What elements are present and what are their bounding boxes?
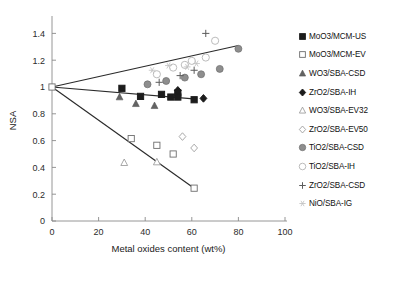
data-point-filled-diamond — [200, 95, 207, 103]
data-point-filled-circle — [198, 71, 205, 78]
data-point-filled-circle — [144, 81, 151, 88]
legend-marker-filled-square-icon — [296, 30, 309, 43]
legend-item[interactable]: ZrO2/SBA-EV50 — [296, 120, 420, 139]
legend-item-label: WO3/SBA-EV32 — [309, 106, 368, 115]
data-point-filled-circle — [235, 45, 242, 52]
legend-item[interactable]: WO3/SBA-CSD — [296, 64, 420, 83]
data-point-open-square — [300, 52, 306, 58]
chart-legend: MoO3/MCM-USMoO3/MCM-EVWO3/SBA-CSDZrO2/SB… — [296, 27, 420, 213]
data-point-filled-diamond — [299, 89, 305, 96]
legend-item[interactable]: WO3/SBA-EV32 — [296, 101, 420, 120]
data-point-filled-square — [168, 94, 174, 100]
data-point-filled-square — [191, 97, 197, 103]
data-point-filled-square — [119, 85, 125, 91]
legend-item-label: ZrO2/SBA-EV50 — [309, 125, 368, 134]
legend-item[interactable]: NiO/SBA-IG — [296, 194, 420, 213]
data-point-open-square — [191, 185, 197, 191]
x-axis-title: Metal oxides content (wt%) — [111, 243, 225, 254]
data-point-filled-circle — [299, 145, 305, 151]
data-point-plus — [191, 67, 198, 74]
y-tick-label: 1 — [40, 82, 45, 92]
legend-marker-open-diamond-icon — [296, 123, 309, 136]
data-point-open-triangle — [121, 159, 128, 166]
legend-item-label: TiO2/SBA-IH — [309, 162, 355, 171]
data-point-open-circle — [299, 163, 306, 170]
legend-item[interactable]: ZrO2/SBA-CSD — [296, 176, 420, 195]
x-tick-label: 80 — [233, 227, 243, 237]
legend-marker-plus-icon — [296, 179, 309, 192]
x-tick-label: 0 — [49, 227, 54, 237]
legend-item[interactable]: ZrO2/SBA-IH — [296, 83, 420, 102]
data-point-open-circle — [170, 64, 177, 71]
y-tick-label: 1.2 — [32, 56, 45, 66]
data-point-filled-circle — [216, 65, 223, 72]
data-point-plus — [202, 30, 209, 37]
legend-item-label: NiO/SBA-IG — [309, 199, 352, 208]
x-tick-label: 20 — [94, 227, 104, 237]
legend-item[interactable]: MoO3/MCM-US — [296, 27, 420, 46]
data-point-filled-triangle — [132, 100, 139, 107]
data-point-open-square — [128, 135, 134, 141]
x-tick-label: 60 — [187, 227, 197, 237]
legend-marker-filled-circle-icon — [296, 141, 309, 154]
legend-item-label: MoO3/MCM-EV — [309, 50, 366, 59]
legend-item-label: ZrO2/SBA-IH — [309, 88, 356, 97]
data-point-open-square — [49, 84, 55, 90]
legend-item[interactable]: MoO3/MCM-EV — [296, 46, 420, 65]
data-point-open-square — [170, 151, 176, 157]
data-point-open-square — [154, 142, 160, 148]
data-point-star — [299, 201, 305, 206]
legend-item-label: TiO2/SBA-CSD — [309, 143, 364, 152]
legend-marker-open-square-icon — [296, 48, 309, 61]
y-tick-label: 0.8 — [32, 109, 45, 119]
data-point-plus — [299, 182, 306, 189]
data-point-open-triangle — [299, 107, 305, 113]
legend-marker-open-circle-icon — [296, 160, 309, 173]
data-point-filled-square — [300, 33, 306, 39]
y-tick-label: 0.6 — [32, 136, 45, 146]
legend-item[interactable]: TiO2/SBA-IH — [296, 157, 420, 176]
data-point-filled-triangle — [299, 70, 305, 76]
data-point-filled-square — [158, 91, 164, 97]
data-point-open-circle — [153, 71, 160, 78]
data-point-open-circle — [212, 37, 219, 44]
y-tick-label: 1.4 — [32, 29, 45, 39]
y-tick-label: 0.2 — [32, 190, 45, 200]
legend-marker-filled-triangle-icon — [296, 67, 309, 80]
legend-marker-open-triangle-icon — [296, 104, 309, 117]
data-point-open-circle — [202, 54, 209, 61]
data-point-open-diamond — [299, 126, 305, 133]
trendline — [52, 45, 238, 87]
legend-item-label: MoO3/MCM-US — [309, 32, 366, 41]
data-point-filled-triangle — [151, 102, 158, 109]
legend-item-label: WO3/SBA-CSD — [309, 69, 365, 78]
trendline — [52, 87, 194, 188]
legend-item[interactable]: TiO2/SBA-CSD — [296, 139, 420, 158]
y-axis-title: NSA — [7, 110, 18, 130]
data-point-plus — [156, 79, 163, 86]
scatter-chart-figure: 02040608010000.20.40.60.811.21.4Metal ox… — [0, 0, 420, 281]
data-point-open-diamond — [191, 144, 198, 152]
y-tick-label: 0.4 — [32, 163, 45, 173]
y-tick-label: 0 — [40, 216, 45, 226]
series-ZrO2-SBA-EV50 — [179, 133, 197, 152]
legend-marker-star-icon — [296, 197, 309, 210]
x-tick-label: 40 — [140, 227, 150, 237]
x-tick-label: 100 — [277, 227, 292, 237]
legend-item-label: ZrO2/SBA-CSD — [309, 181, 365, 190]
data-point-filled-square — [137, 93, 143, 99]
legend-marker-filled-diamond-icon — [296, 86, 309, 99]
data-point-open-diamond — [179, 133, 186, 141]
data-point-filled-circle — [163, 77, 170, 84]
data-point-filled-triangle — [116, 93, 123, 100]
